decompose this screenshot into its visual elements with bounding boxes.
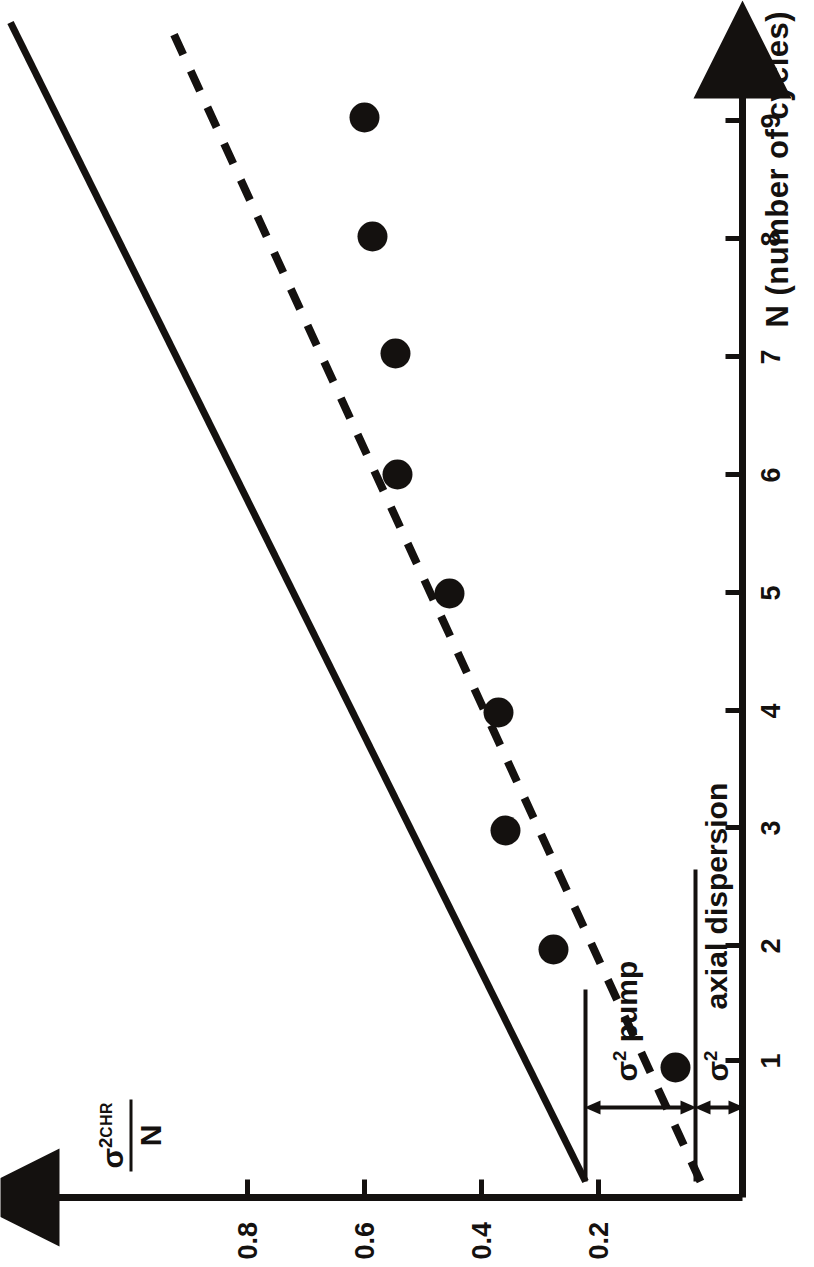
y-tick-label-0-6: 0.6	[349, 1221, 380, 1259]
data-point	[490, 815, 520, 845]
axial-span-arrow	[694, 1100, 744, 1114]
data-point	[357, 221, 387, 251]
data-point	[380, 338, 410, 368]
y-axis-denominator: N	[133, 1099, 165, 1171]
x-axis-title: N (number of cycles)	[759, 10, 795, 327]
y-tick-label-0-8: 0.8	[232, 1221, 263, 1259]
y-axis-numerator: σ2CHR	[96, 1099, 128, 1171]
x-tick-label-2: 2	[755, 938, 786, 953]
x-tick-label-1: 1	[755, 1053, 786, 1068]
sigma-pump-annotation: σ2 pump	[608, 960, 643, 1081]
pump-span-arrow	[584, 1100, 696, 1114]
fraction-bar	[129, 1099, 132, 1171]
data-point	[434, 578, 464, 608]
y-axis-group	[38, 1179, 742, 1197]
data-point	[660, 1052, 690, 1082]
y-axis-title: σ2CHR N	[96, 1099, 165, 1171]
sigma-axial-sigma: σ2	[699, 1050, 734, 1081]
figure-page: 0.2 0.4 0.6 0.8 1 2 3 4 5 6 7 8 9 N (num…	[0, 0, 814, 1267]
x-tick-label-3: 3	[755, 820, 786, 835]
y-tick-label-0-4: 0.4	[466, 1221, 497, 1259]
plot-area: 0.2 0.4 0.6 0.8 1 2 3 4 5 6 7 8 9 N (num…	[0, 0, 814, 1267]
data-point	[382, 459, 412, 489]
data-point	[538, 934, 568, 964]
x-tick-label-7: 7	[755, 349, 786, 364]
data-point	[483, 697, 513, 727]
x-tick-label-4: 4	[755, 703, 786, 718]
sigma-axial-annotation: axial dispersion	[699, 782, 733, 1009]
x-tick-label-6: 6	[755, 467, 786, 482]
rotated-figure-container: 0.2 0.4 0.6 0.8 1 2 3 4 5 6 7 8 9 N (num…	[0, 0, 814, 1267]
data-point	[349, 102, 379, 132]
x-axis-group	[725, 77, 742, 1197]
solid-trend-line	[10, 22, 585, 1181]
data-points-group	[349, 102, 690, 1082]
y-tick-label-0-2: 0.2	[583, 1221, 614, 1259]
plot-graphics	[0, 0, 814, 1267]
x-tick-label-5: 5	[755, 585, 786, 600]
